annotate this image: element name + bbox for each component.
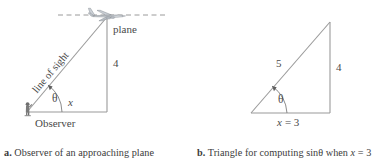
hypotenuse-label-5: 5 [276,58,282,69]
angle-label-theta: θ [52,93,58,105]
caption-b-text-before: Triangle for computing sin [208,147,318,158]
observer-label: Observer [35,118,75,129]
line-of-sight-segment [27,17,107,112]
horizontal-side-label-x: x [68,97,73,108]
panel-b-triangle: 5 4 θ x= 3 b. Triangle for computing sin… [193,0,387,164]
caption-b-label: b. [197,147,205,158]
plane-label: plane [113,24,137,35]
angle-label-theta: θ [278,94,284,106]
caption-a-label: a. [4,147,12,158]
panel-a-drawing [0,0,193,138]
base-label: x= 3 [277,117,299,128]
caption-a: a. Observer of an approaching plane [4,147,154,158]
person-icon [25,102,33,116]
vertical-side-label-4: 4 [113,58,119,69]
hypotenuse-segment [251,22,330,113]
base-label-x: x [277,116,282,128]
figure-root: plane 4 x θ Observer line of sight a. Ob… [0,0,387,164]
caption-b: b. Triangle for computing sinθ when x = … [197,147,371,158]
caption-a-text: Observer of an approaching plane [14,147,154,158]
base-label-value: = 3 [285,116,299,128]
caption-b-text-middle: when [323,147,350,158]
caption-b-text-after: = 3 [355,147,371,158]
vertical-side-label-4: 4 [336,62,342,73]
angle-arc-arrowhead-icon [48,85,53,90]
panel-a-observer-plane: plane 4 x θ Observer line of sight a. Ob… [0,0,193,164]
